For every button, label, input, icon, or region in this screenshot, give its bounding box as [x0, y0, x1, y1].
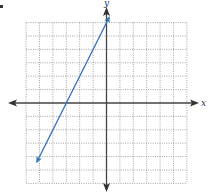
axes: x y [8, 0, 206, 192]
x-axis-label: x [201, 98, 206, 108]
coordinate-plane: x y [0, 0, 208, 192]
y-axis-label: y [103, 0, 110, 8]
corner-mark [0, 5, 3, 8]
